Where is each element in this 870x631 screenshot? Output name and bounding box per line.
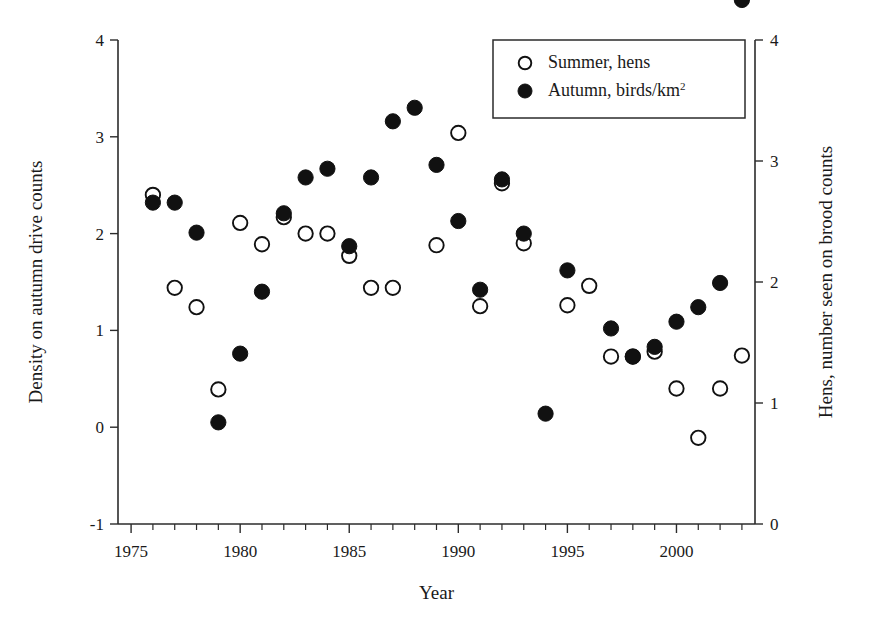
y-axis-right-title: Hens, number seen on brood counts xyxy=(815,146,836,418)
data-point-summer xyxy=(429,238,443,252)
y-axis-left-tick-label: 4 xyxy=(96,31,105,50)
y-axis-left-tick-label: 2 xyxy=(96,225,105,244)
data-point-autumn xyxy=(494,172,509,187)
data-point-autumn xyxy=(320,161,335,176)
data-point-summer xyxy=(735,348,749,362)
y-axis-left-tick-label: 1 xyxy=(96,321,105,340)
data-point-autumn xyxy=(603,321,618,336)
data-point-autumn xyxy=(298,170,313,185)
data-point-autumn xyxy=(734,0,749,8)
data-point-summer xyxy=(168,281,182,295)
data-point-autumn xyxy=(451,213,466,228)
chart-canvas: -10123401234197519801985199019952000Dens… xyxy=(0,0,870,631)
data-point-summer xyxy=(320,226,334,240)
data-point-autumn xyxy=(211,415,226,430)
x-axis-tick-label: 2000 xyxy=(659,542,693,561)
y-axis-right-tick-label: 0 xyxy=(770,515,779,534)
y-axis-left-tick-label: 3 xyxy=(96,128,105,147)
data-point-autumn xyxy=(712,275,727,290)
legend-marker-filled-circle-icon xyxy=(518,84,532,98)
data-point-autumn xyxy=(560,263,575,278)
x-axis-title: Year xyxy=(419,582,455,603)
data-point-summer xyxy=(255,237,269,251)
data-point-autumn xyxy=(429,157,444,172)
legend-label-summer: Summer, hens xyxy=(548,52,650,72)
x-axis-tick-label: 1985 xyxy=(332,542,366,561)
y-axis-right-tick-label: 1 xyxy=(770,394,779,413)
data-point-autumn xyxy=(691,300,706,315)
x-axis-tick-label: 1995 xyxy=(550,542,584,561)
data-point-summer xyxy=(560,298,574,312)
data-point-autumn xyxy=(233,346,248,361)
legend-label-autumn-superscript: 2 xyxy=(680,80,686,92)
y-axis-left-tick-label: -1 xyxy=(90,515,104,534)
data-point-autumn xyxy=(276,206,291,221)
scatter-chart-figure: -10123401234197519801985199019952000Dens… xyxy=(0,0,870,631)
y-axis-right-tick-label: 2 xyxy=(770,273,779,292)
data-point-summer xyxy=(364,281,378,295)
legend-marker-open-circle-icon xyxy=(519,57,532,70)
data-point-summer xyxy=(669,381,683,395)
chart-legend: Summer, hensAutumn, birds/km2 xyxy=(493,40,745,118)
y-axis-left-title: Density on autumn drive counts xyxy=(25,161,46,404)
x-axis-tick-label: 1980 xyxy=(223,542,257,561)
data-point-summer xyxy=(233,216,247,230)
data-point-autumn xyxy=(254,284,269,299)
data-point-summer xyxy=(604,349,618,363)
data-point-autumn xyxy=(385,114,400,129)
data-point-autumn xyxy=(407,100,422,115)
y-axis-right-tick-label: 4 xyxy=(770,31,779,50)
data-point-summer xyxy=(473,299,487,313)
data-point-summer xyxy=(386,281,400,295)
data-point-autumn xyxy=(625,349,640,364)
data-point-autumn xyxy=(145,195,160,210)
data-point-summer xyxy=(298,226,312,240)
x-axis-tick-label: 1975 xyxy=(114,542,148,561)
data-point-autumn xyxy=(538,406,553,421)
data-point-summer xyxy=(691,431,705,445)
data-point-autumn xyxy=(363,170,378,185)
data-point-autumn xyxy=(647,339,662,354)
data-point-summer xyxy=(713,381,727,395)
data-point-autumn xyxy=(167,195,182,210)
y-axis-right-tick-label: 3 xyxy=(770,152,779,171)
data-point-autumn xyxy=(473,282,488,297)
data-point-autumn xyxy=(342,239,357,254)
series-summer-hens xyxy=(146,126,749,445)
y-axis-left-tick-label: 0 xyxy=(96,418,105,437)
data-point-summer xyxy=(582,279,596,293)
data-point-summer xyxy=(189,300,203,314)
data-point-summer xyxy=(451,126,465,140)
data-point-autumn xyxy=(669,314,684,329)
data-point-autumn xyxy=(189,225,204,240)
data-point-autumn xyxy=(516,226,531,241)
legend-label-autumn: Autumn, birds/km2 xyxy=(548,80,686,100)
data-point-summer xyxy=(211,382,225,396)
x-axis-tick-label: 1990 xyxy=(441,542,475,561)
